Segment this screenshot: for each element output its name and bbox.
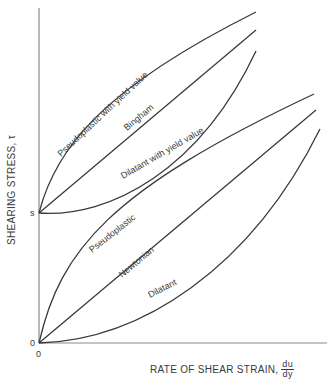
label-newtonian: Newtonian — [117, 245, 156, 280]
label-bingham: Bingham — [122, 102, 156, 132]
curve-bingham — [39, 30, 256, 213]
diagram-canvas: Pseudoplastic with yield value Bingham D… — [0, 0, 336, 385]
x-axis-fraction: du dy — [281, 360, 294, 379]
fraction-denominator: dy — [283, 370, 293, 379]
curve-dilatant — [39, 129, 320, 343]
y-axis-label: SHEARING STRESS, τ — [6, 135, 17, 245]
y-tick-origin: 0 — [30, 338, 35, 348]
label-dilatant: Dilatant — [146, 277, 178, 300]
y-tick-s: s — [30, 208, 35, 218]
flow-curves-diagram: Pseudoplastic with yield value Bingham D… — [0, 0, 336, 385]
x-tick-origin: 0 — [36, 349, 41, 359]
x-axis-label-group: RATE OF SHEAR STRAIN, du dy — [150, 360, 294, 379]
x-axis-label: RATE OF SHEAR STRAIN, — [150, 364, 278, 375]
